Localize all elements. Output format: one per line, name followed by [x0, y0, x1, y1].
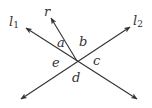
- angle-label-d: d: [72, 71, 80, 84]
- line-l2: [21, 27, 130, 99]
- angle-label-e: e: [52, 56, 60, 69]
- angle-label-a: a: [57, 36, 65, 49]
- angle-label-b: b: [79, 35, 87, 48]
- diagram-canvas: [0, 0, 152, 108]
- label-r: r: [44, 5, 50, 18]
- angle-label-c: c: [93, 54, 100, 67]
- label-l2: l2: [133, 14, 143, 29]
- label-l1: l1: [9, 15, 19, 30]
